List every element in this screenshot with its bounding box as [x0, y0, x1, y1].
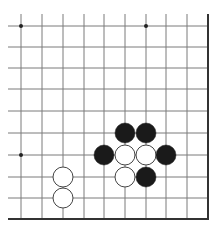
black-stone	[94, 145, 114, 165]
white-stone	[136, 145, 156, 165]
star-point-icon	[144, 24, 148, 28]
star-point-icon	[19, 24, 23, 28]
black-stone	[136, 167, 156, 187]
grid-lines	[8, 14, 208, 219]
black-stone	[115, 123, 135, 143]
black-stone	[136, 123, 156, 143]
star-point-icon	[19, 153, 23, 157]
black-stone	[156, 145, 176, 165]
go-board[interactable]	[0, 0, 216, 230]
board-edges	[8, 14, 209, 220]
stones	[53, 123, 176, 208]
white-stone	[53, 188, 73, 208]
white-stone	[115, 167, 135, 187]
white-stone	[53, 167, 73, 187]
white-stone	[115, 145, 135, 165]
